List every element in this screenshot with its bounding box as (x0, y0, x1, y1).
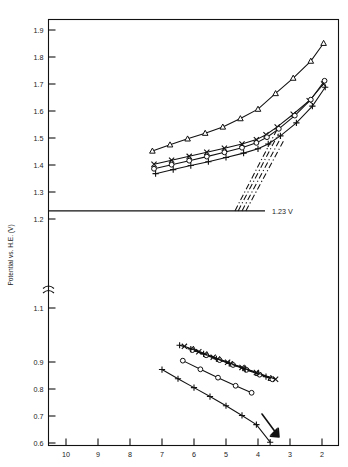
data-point-plus (239, 412, 245, 418)
data-point-circle (265, 135, 270, 140)
data-point-circle (254, 140, 259, 145)
y-axis-tick-label: 0.8 (34, 385, 44, 394)
y-axis-tick-label: 1.2 (34, 215, 44, 224)
x-axis-tick-label: 8 (128, 450, 132, 459)
data-point-plus (223, 154, 229, 160)
data-point-circle (169, 162, 174, 167)
reference-line-labels: 1.23 V (272, 207, 293, 216)
series-line (154, 84, 324, 164)
y-axis-tick-label: 1.6 (34, 107, 44, 116)
x-axis-tick-label: 5 (224, 450, 228, 459)
data-point-circle (180, 358, 185, 363)
data-point-triangle (220, 124, 226, 129)
series-line (154, 81, 325, 169)
series-upper-triangle-series (150, 40, 327, 153)
y-axis-tick-label: 0.9 (34, 358, 44, 367)
y-axis-title: Potential vs. H.E. (V) (7, 224, 15, 285)
data-point-circle (240, 145, 245, 150)
data-point-plus (241, 150, 247, 156)
data-point-circle (222, 150, 227, 155)
series-line (156, 87, 326, 173)
y-axis-tick-label: 1.4 (34, 161, 44, 170)
data-point-circle (216, 375, 221, 380)
data-point-triangle (167, 142, 173, 147)
data-point-circle (152, 166, 157, 171)
data-series-group (150, 40, 329, 445)
data-point-triangle (150, 148, 156, 153)
data-point-circle (249, 390, 254, 395)
x-axis-tick-label: 10 (62, 450, 70, 459)
x-axis-tick-label: 3 (288, 450, 292, 459)
x-axis-tick-label: 9 (96, 450, 100, 459)
data-point-plus (159, 366, 165, 372)
series-line (242, 137, 281, 211)
x-axis-tick-label: 4 (256, 450, 260, 459)
series-lower-circle-series (180, 358, 254, 395)
data-point-circle (233, 383, 238, 388)
data-point-plus (207, 393, 213, 399)
data-point-circle (308, 97, 313, 102)
data-point-plus (177, 342, 183, 348)
x-axis-tick-label: 7 (160, 450, 164, 459)
equilibrium-line-label: 1.23 V (272, 207, 293, 216)
data-point-triangle (202, 130, 208, 135)
series-extrapolation-line-2 (238, 134, 278, 211)
y-axis-ticks (49, 30, 56, 443)
y-axis-tick-label: 1.3 (34, 188, 44, 197)
y-axis-tick-label: 1.1 (34, 304, 44, 313)
figure-container: 1.91.81.71.61.51.41.31.21.10.90.80.70.6 … (0, 0, 348, 467)
data-point-triangle (185, 136, 191, 141)
series-line (152, 43, 323, 151)
series-extrapolation-line-3 (242, 137, 281, 211)
plot-frame-rect (49, 20, 339, 446)
y-axis-tick-label: 1.9 (34, 26, 44, 35)
data-point-circle (198, 367, 203, 372)
series-line (238, 134, 278, 211)
data-point-plus (255, 146, 261, 152)
pourbaix-potential-vs-ph-chart: 1.91.81.71.61.51.41.31.21.10.90.80.70.6 … (0, 0, 348, 467)
data-point-plus (205, 159, 211, 165)
data-point-plus (191, 385, 197, 391)
data-point-circle (204, 154, 209, 159)
y-axis-tick-label: 1.5 (34, 134, 44, 143)
plot-frame (49, 20, 339, 446)
data-point-plus (175, 376, 181, 382)
y-axis-tick-labels: 1.91.81.71.61.51.41.31.21.10.90.80.70.6 (34, 26, 44, 448)
series-upper-circle-series (152, 78, 327, 171)
x-axis-tick-labels: 1098765432 (62, 450, 324, 459)
data-point-circle (276, 126, 281, 131)
y-axis-tick-label: 1.7 (34, 80, 44, 89)
data-point-plus (223, 403, 229, 409)
x-axis-ticks (66, 439, 322, 446)
data-point-circle (322, 78, 327, 83)
data-point-circle (187, 158, 192, 163)
y-axis-tick-label: 1.8 (34, 53, 44, 62)
cursor-arrow-icon (262, 414, 279, 437)
data-point-circle (292, 113, 297, 118)
data-point-triangle (321, 40, 327, 45)
y-axis-tick-label: 0.6 (34, 439, 44, 448)
y-axis-title-text: Potential vs. H.E. (V) (7, 224, 15, 285)
x-axis-tick-label: 2 (320, 450, 324, 459)
x-axis-tick-label: 6 (192, 450, 196, 459)
y-axis-tick-label: 0.7 (34, 412, 44, 421)
data-point-triangle (238, 116, 244, 121)
data-point-plus (263, 373, 269, 379)
